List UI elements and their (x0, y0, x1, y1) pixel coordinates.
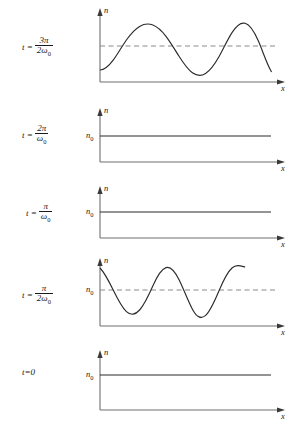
y-axis-arrowhead (97, 8, 102, 16)
x-axis-arrowhead (277, 159, 285, 164)
plot-area (0, 254, 292, 344)
density-curve (100, 266, 245, 318)
density-curve (100, 23, 272, 75)
plot-area (0, 344, 292, 426)
plot-area (0, 0, 292, 100)
x-axis-arrowhead (277, 407, 285, 412)
y-axis-arrowhead (97, 108, 102, 116)
y-axis-arrowhead (97, 186, 102, 194)
x-axis-arrowhead (277, 235, 285, 240)
plot-panel: t = 3π 2ω0 n x (0, 0, 292, 100)
y-axis-arrowhead (97, 258, 102, 266)
plot-panel: t = 2π ω0 n n0 x (0, 100, 292, 178)
plot-area (0, 178, 292, 254)
density-wave-figure: t = 3π 2ω0 n x t = 2π ω0 n n0 x (0, 0, 292, 426)
plot-panel: t = π ω0 n n0 x (0, 178, 292, 254)
x-axis-arrowhead (277, 323, 285, 328)
x-axis-arrowhead (277, 79, 285, 84)
plot-panel: t=0 n n0 x (0, 344, 292, 426)
y-axis-arrowhead (97, 350, 102, 358)
plot-panel: t = π 2ω0 n n0 x (0, 254, 292, 344)
plot-area (0, 100, 292, 178)
